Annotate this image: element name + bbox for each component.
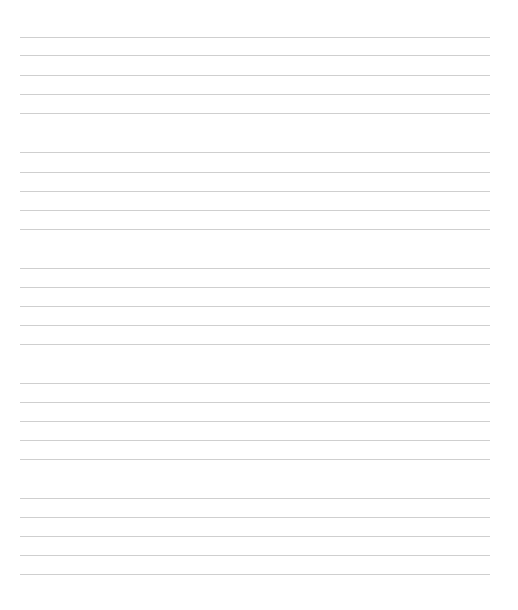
ruled-line	[20, 172, 490, 173]
ruled-line	[20, 268, 490, 269]
ruled-line	[20, 459, 490, 460]
ruled-line	[20, 229, 490, 230]
ruled-line	[20, 55, 490, 56]
ruled-line	[20, 306, 490, 307]
ruled-line	[20, 287, 490, 288]
ruled-line	[20, 498, 490, 499]
ruled-line	[20, 113, 490, 114]
ruled-line	[20, 191, 490, 192]
ruled-line	[20, 325, 490, 326]
ruled-line	[20, 440, 490, 441]
ruled-line	[20, 37, 490, 38]
lined-page	[0, 0, 518, 610]
ruled-line	[20, 574, 490, 575]
ruled-line	[20, 383, 490, 384]
ruled-line	[20, 94, 490, 95]
ruled-line	[20, 421, 490, 422]
ruled-line	[20, 402, 490, 403]
ruled-line	[20, 536, 490, 537]
ruled-line	[20, 210, 490, 211]
ruled-line	[20, 555, 490, 556]
ruled-line	[20, 517, 490, 518]
ruled-line	[20, 152, 490, 153]
ruled-line	[20, 75, 490, 76]
ruled-line	[20, 344, 490, 345]
